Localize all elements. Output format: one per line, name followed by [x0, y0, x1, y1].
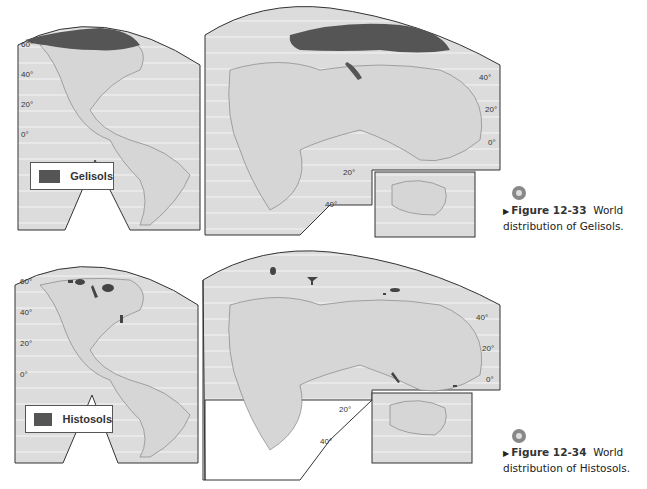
- lat-label: 40°: [325, 200, 337, 209]
- cd-icon[interactable]: [512, 429, 526, 443]
- lat-label: 20°: [21, 100, 33, 109]
- figure-caption: ▶Figure 12-34 World distribution of Hist…: [503, 445, 630, 475]
- lat-label: 0°: [486, 375, 494, 384]
- lat-label: 0°: [488, 138, 496, 147]
- lat-label: 60°: [20, 277, 32, 286]
- lat-label: 60°: [21, 40, 33, 49]
- legend-swatch: [39, 170, 60, 183]
- legend-label: Histosols: [62, 413, 112, 425]
- figure-number: Figure 12-33: [511, 204, 586, 216]
- legend-label: Gelisols: [70, 170, 113, 182]
- caption-text: World: [593, 446, 623, 458]
- legend-histosols: Histosols: [25, 405, 113, 433]
- figure-number: Figure 12-34: [511, 446, 586, 458]
- caption-text: distribution of Gelisols.: [503, 219, 624, 233]
- triangle-bullet-icon: ▶: [503, 449, 509, 458]
- lat-label: 40°: [20, 308, 32, 317]
- figure-caption: ▶Figure 12-33 World distribution of Geli…: [503, 203, 624, 233]
- lat-label: 40°: [479, 73, 491, 82]
- legend-gelisols: Gelisols: [30, 162, 114, 190]
- caption-text: World: [593, 204, 623, 216]
- triangle-bullet-icon: ▶: [503, 207, 509, 216]
- lat-label: 20°: [339, 405, 351, 414]
- caption-text: distribution of Histosols.: [503, 461, 630, 475]
- lat-label: 20°: [485, 105, 497, 114]
- lat-label: 20°: [20, 339, 32, 348]
- figure-gelisols: Gelisols 60° 40° 20° 0° 40° 20° 0° 20° 4…: [0, 0, 647, 245]
- lat-label: 0°: [20, 370, 28, 379]
- lat-label: 0°: [21, 130, 29, 139]
- lat-label: 20°: [482, 344, 494, 353]
- legend-swatch: [34, 413, 52, 426]
- lat-label: 20°: [343, 168, 355, 177]
- cd-icon[interactable]: [512, 186, 526, 200]
- figure-histosols: Histosols 60° 40° 20° 0° 40° 20° 0° 20° …: [0, 245, 647, 489]
- lat-label: 40°: [21, 70, 33, 79]
- lat-label: 40°: [476, 313, 488, 322]
- lat-label: 40°: [320, 437, 332, 446]
